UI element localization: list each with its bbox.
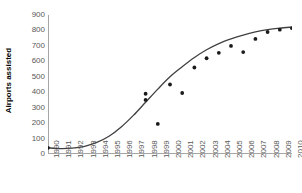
y-tick-label: 300	[19, 104, 45, 112]
data-point	[48, 146, 50, 150]
y-axis-tick-labels: 9008007006005004003002001000	[18, 0, 45, 193]
data-point	[180, 91, 184, 95]
x-tick-label: 2000	[174, 124, 183, 158]
x-tick-label: 1998	[150, 124, 159, 158]
y-tick-label: 100	[19, 135, 45, 143]
x-axis-tick-labels: 1990199119921993199419951996199719981999…	[48, 156, 292, 193]
data-point	[205, 56, 209, 60]
x-tick-label: 1994	[101, 124, 110, 158]
data-point	[241, 50, 245, 54]
y-axis-title: Airports assisted	[0, 0, 18, 160]
y-tick-label: 700	[19, 42, 45, 50]
y-axis-title-text: Airports assisted	[5, 47, 14, 112]
x-tick-label: 2010	[296, 124, 302, 158]
data-point	[144, 92, 148, 96]
y-tick-label: 0	[19, 150, 45, 158]
x-tick-label: 2001	[186, 124, 195, 158]
data-point	[254, 37, 258, 41]
y-tick-label: 400	[19, 88, 45, 96]
data-point	[217, 51, 221, 55]
x-tick-label: 1997	[137, 124, 146, 158]
chart-container: Airports assisted 9008007006005004003002…	[0, 0, 302, 193]
y-tick-label: 500	[19, 73, 45, 81]
x-tick-label: 2008	[272, 124, 281, 158]
x-tick-label: 1992	[76, 124, 85, 158]
x-tick-label: 1999	[162, 124, 171, 158]
x-tick-label: 2002	[198, 124, 207, 158]
data-point	[168, 83, 172, 87]
x-tick-label: 1990	[52, 124, 61, 158]
data-point	[144, 98, 148, 102]
x-tick-label: 1991	[64, 124, 73, 158]
x-tick-label: 1993	[89, 124, 98, 158]
data-point	[266, 30, 270, 34]
data-point	[193, 66, 197, 70]
x-tick-label: 2009	[284, 124, 293, 158]
x-tick-label: 2005	[235, 124, 244, 158]
x-tick-label: 2006	[247, 124, 256, 158]
y-tick-label: 600	[19, 57, 45, 65]
x-tick-label: 2004	[223, 124, 232, 158]
y-tick-label: 800	[19, 26, 45, 34]
x-tick-label: 2003	[211, 124, 220, 158]
data-point	[229, 44, 233, 48]
y-tick-label: 900	[19, 11, 45, 19]
y-tick-label: 200	[19, 119, 45, 127]
x-tick-label: 1995	[113, 124, 122, 158]
data-point	[278, 28, 282, 32]
x-tick-label: 1996	[125, 124, 134, 158]
x-tick-label: 2007	[259, 124, 268, 158]
